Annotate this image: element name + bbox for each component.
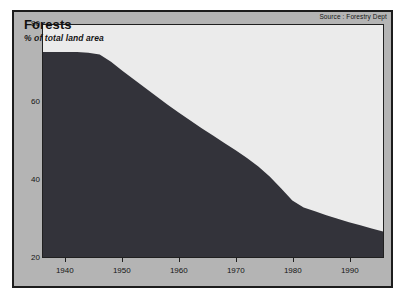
x-tick-mark (293, 258, 294, 262)
x-tick-label: 1990 (341, 267, 359, 275)
x-tick-label: 1950 (113, 267, 131, 275)
x-tick-mark (122, 258, 123, 262)
x-tick-label: 1960 (170, 267, 188, 275)
y-axis: 80604020 (14, 12, 40, 270)
plot-area (42, 24, 384, 258)
x-tick-mark (236, 258, 237, 262)
x-tick-label: 1940 (56, 267, 74, 275)
y-tick-label: 60 (16, 98, 40, 106)
area-chart-svg (43, 25, 383, 257)
y-tick-label: 40 (16, 176, 40, 184)
x-tick-mark (65, 258, 66, 262)
x-axis: 194019501960197019801990 (42, 258, 384, 280)
source-note: Source : Forestry Dept (319, 13, 387, 20)
x-tick-mark (179, 258, 180, 262)
x-tick-label: 1970 (227, 267, 245, 275)
figure-root: Source : Forestry Dept 80604020 Forests … (0, 0, 405, 304)
x-tick-label: 1980 (284, 267, 302, 275)
chart-panel: Source : Forestry Dept 80604020 Forests … (12, 10, 393, 288)
y-tick-label: 80 (16, 20, 40, 28)
y-tick-label: 20 (16, 254, 40, 262)
forest-area-path (43, 52, 383, 257)
x-tick-mark (350, 258, 351, 262)
